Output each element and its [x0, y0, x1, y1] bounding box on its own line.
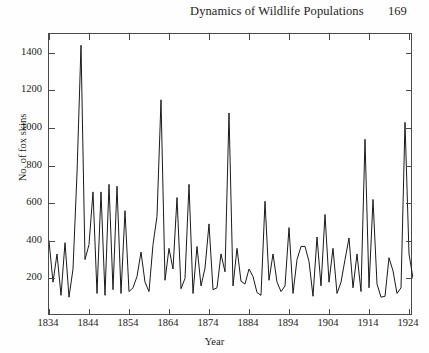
x-tick-label-1884: 1884 [228, 317, 268, 328]
x-tick-bottom [89, 309, 90, 315]
x-tick-top [89, 34, 90, 40]
x-tick-label-1924: 1924 [388, 317, 428, 328]
y-tick-label-400: 400 [10, 234, 42, 245]
x-tick-top [169, 34, 170, 40]
x-tick-label-1834: 1834 [28, 317, 68, 328]
x-tick-top [129, 34, 130, 40]
y-tick-right [406, 90, 412, 91]
y-axis-title: No. of fox skins [17, 93, 28, 203]
fox-skins-line-series [49, 34, 413, 316]
x-tick-bottom [49, 309, 50, 315]
x-tick-top [49, 34, 50, 40]
x-tick-top [369, 34, 370, 40]
y-tick-left [49, 53, 55, 54]
x-axis-title: Year [0, 336, 429, 347]
y-tick-left [49, 278, 55, 279]
y-tick-left [49, 241, 55, 242]
x-tick-label-1864: 1864 [148, 317, 188, 328]
x-tick-bottom [289, 309, 290, 315]
page-number: 169 [388, 4, 407, 19]
x-tick-label-1894: 1894 [268, 317, 308, 328]
x-tick-label-1854: 1854 [108, 317, 148, 328]
x-tick-bottom [209, 309, 210, 315]
x-tick-bottom [169, 309, 170, 315]
x-tick-label-1844: 1844 [68, 317, 108, 328]
figure-fox-skins-timeseries: 200400600800100012001400 183418441854186… [0, 24, 429, 353]
x-tick-top [409, 34, 410, 40]
y-tick-right [406, 203, 412, 204]
x-tick-bottom [409, 309, 410, 315]
x-tick-label-1914: 1914 [348, 317, 388, 328]
y-tick-right [406, 166, 412, 167]
x-tick-bottom [329, 309, 330, 315]
x-tick-top [289, 34, 290, 40]
y-tick-left [49, 203, 55, 204]
y-tick-right [406, 128, 412, 129]
x-tick-bottom [129, 309, 130, 315]
data-polyline [49, 45, 413, 297]
x-tick-label-1904: 1904 [308, 317, 348, 328]
y-tick-left [49, 90, 55, 91]
x-tick-bottom [369, 309, 370, 315]
y-tick-left [49, 166, 55, 167]
book-page: Dynamics of Wildlife Populations 169 200… [0, 0, 429, 353]
y-tick-right [406, 278, 412, 279]
running-head: Dynamics of Wildlife Populations 169 [0, 2, 429, 24]
y-tick-right [406, 53, 412, 54]
x-tick-top [249, 34, 250, 40]
x-tick-top [329, 34, 330, 40]
x-tick-label-1874: 1874 [188, 317, 228, 328]
x-tick-top [209, 34, 210, 40]
x-tick-bottom [249, 309, 250, 315]
plot-frame [48, 33, 412, 315]
book-title: Dynamics of Wildlife Populations [190, 4, 364, 19]
y-tick-label-1400: 1400 [10, 46, 42, 57]
y-tick-label-200: 200 [10, 271, 42, 282]
y-tick-left [49, 128, 55, 129]
y-tick-right [406, 241, 412, 242]
